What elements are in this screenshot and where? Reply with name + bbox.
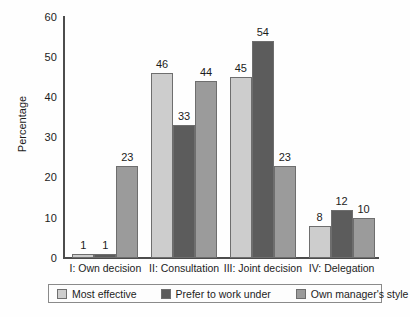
bar-value-label: 23	[121, 151, 133, 163]
bar-value-label: 10	[358, 203, 370, 215]
bar-group: 1123	[72, 17, 138, 258]
legend-swatch-icon-prefer-to-work-under	[161, 289, 171, 299]
bar-value-label: 12	[336, 195, 348, 207]
bar: 12	[331, 210, 353, 258]
y-tick-40: 40	[0, 91, 57, 103]
bar-value-label: 54	[257, 26, 269, 38]
bar-value-label: 44	[200, 66, 212, 78]
x-axis-category-label: I: Own decision	[69, 262, 141, 274]
bar: 33	[173, 125, 195, 258]
bar-value-label: 1	[80, 239, 86, 251]
x-axis-category-label: III: Joint decision	[224, 262, 302, 274]
legend-label-most-effective: Most effective	[72, 288, 137, 300]
bar: 46	[151, 73, 173, 258]
y-tick-20: 20	[0, 171, 57, 183]
bar: 8	[309, 226, 331, 258]
y-tick-0: 0	[0, 252, 57, 264]
bar-group: 463344	[151, 17, 217, 258]
legend-swatch-icon-own-managers-style	[296, 289, 306, 299]
plot-area: 112346334445542381210	[63, 17, 378, 258]
y-tick-50: 50	[0, 51, 57, 63]
y-tick-60: 60	[0, 11, 57, 23]
bar-value-label: 23	[279, 151, 291, 163]
legend-item-prefer-to-work-under: Prefer to work under	[161, 288, 271, 300]
bar: 23	[274, 166, 296, 258]
legend-item-own-managers-style: Own manager's style	[296, 288, 409, 300]
bar-value-label: 8	[317, 211, 323, 223]
chart-figure: Percentage 60 50 40 30 20 10 0 112346334…	[0, 0, 410, 317]
bar-value-label: 46	[156, 58, 168, 70]
y-axis-labels: Percentage 60 50 40 30 20 10 0	[0, 0, 57, 317]
bar: 44	[195, 81, 217, 258]
bar: 54	[252, 41, 274, 258]
legend-label-own-managers-style: Own manager's style	[311, 288, 409, 300]
x-axis-category-label: IV: Delegation	[309, 262, 375, 274]
y-tick-10: 10	[0, 212, 57, 224]
bar: 10	[353, 218, 375, 258]
bar-value-label: 45	[235, 62, 247, 74]
bar-group: 81210	[309, 17, 375, 258]
bar-value-label: 1	[102, 239, 108, 251]
legend-item-most-effective: Most effective	[57, 288, 137, 300]
chart-legend: Most effective Prefer to work under Own …	[48, 284, 382, 303]
bar-value-label: 33	[178, 110, 190, 122]
bar: 23	[116, 166, 138, 258]
x-axis-category-label: II: Consultation	[149, 262, 219, 274]
legend-label-prefer-to-work-under: Prefer to work under	[176, 288, 271, 300]
bar: 1	[72, 254, 94, 258]
y-tick-30: 30	[0, 131, 57, 143]
legend-swatch-icon-most-effective	[57, 289, 67, 299]
bar-group: 455423	[230, 17, 296, 258]
bar: 1	[94, 254, 116, 258]
bar: 45	[230, 77, 252, 258]
